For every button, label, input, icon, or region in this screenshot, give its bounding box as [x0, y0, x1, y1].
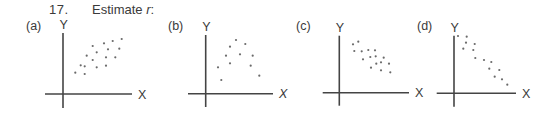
data-point — [488, 68, 490, 70]
data-point — [374, 49, 376, 51]
data-point — [114, 56, 116, 58]
x-axis-label: X — [278, 87, 288, 101]
data-point — [389, 71, 391, 73]
data-point — [357, 41, 359, 43]
x-axis-label: X — [415, 86, 424, 100]
data-point — [490, 61, 492, 63]
data-point — [375, 55, 377, 57]
data-point — [353, 50, 355, 52]
data-point — [105, 56, 107, 58]
data-point — [96, 66, 98, 68]
data-point — [457, 35, 459, 37]
scatter-panel-a: YX — [45, 18, 147, 108]
data-point — [105, 65, 107, 67]
data-point — [84, 73, 86, 75]
data-point — [483, 59, 485, 61]
data-point — [466, 36, 468, 38]
data-point — [506, 84, 508, 86]
x-axis-label: X — [138, 88, 147, 102]
scatter-panel-d: YX — [437, 21, 531, 107]
data-point — [244, 43, 246, 45]
data-point — [462, 48, 464, 50]
data-point — [252, 55, 254, 57]
data-point — [220, 79, 222, 81]
data-point — [92, 59, 94, 61]
data-point — [250, 65, 252, 67]
data-point — [369, 56, 371, 58]
data-point — [380, 69, 382, 71]
y-axis-label: Y — [336, 21, 345, 35]
data-point — [96, 51, 98, 53]
scatter-plots: YXYXYXYX — [0, 0, 550, 117]
data-point — [388, 63, 390, 65]
data-point — [121, 38, 123, 40]
data-point — [501, 78, 503, 80]
data-point — [92, 45, 94, 47]
data-point — [239, 53, 241, 55]
data-point — [367, 49, 369, 51]
data-point — [362, 58, 364, 60]
data-point — [383, 57, 385, 59]
data-point — [370, 67, 372, 69]
data-point — [118, 48, 120, 50]
data-point — [74, 72, 76, 74]
data-point — [375, 63, 377, 65]
data-point — [103, 42, 105, 44]
data-point — [472, 49, 474, 51]
data-point — [258, 75, 260, 77]
data-point — [352, 43, 354, 45]
scatter-panel-b: YX — [188, 20, 288, 107]
data-point — [474, 43, 476, 45]
x-axis-label: X — [522, 87, 531, 101]
data-point — [235, 39, 237, 41]
y-axis-label: Y — [451, 21, 460, 35]
data-point — [80, 64, 82, 66]
data-point — [498, 69, 500, 71]
y-axis-label: Y — [202, 20, 211, 34]
data-point — [112, 40, 114, 42]
data-point — [229, 62, 231, 64]
data-point — [465, 42, 467, 44]
data-point — [84, 65, 86, 67]
data-point — [474, 57, 476, 59]
data-point — [380, 61, 382, 63]
data-point — [361, 50, 363, 52]
y-axis-label: Y — [60, 18, 69, 32]
data-point — [86, 55, 88, 57]
data-point — [217, 66, 219, 68]
data-point — [494, 76, 496, 78]
scatter-panel-c: YX — [323, 21, 424, 106]
data-point — [225, 55, 227, 57]
data-point — [229, 46, 231, 48]
data-point — [107, 48, 109, 50]
